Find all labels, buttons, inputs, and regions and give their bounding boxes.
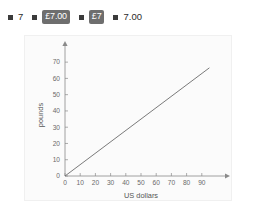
chart-series	[65, 68, 209, 176]
option-item-2[interactable]: £7.00	[32, 10, 70, 24]
y-tick-label: 0	[56, 172, 60, 179]
x-tick-label: 30	[107, 179, 115, 186]
option-label-3: £7	[89, 10, 105, 24]
chart-panel: 0102030405060708090 010203040506070 US d…	[24, 35, 232, 201]
y-tick-label: 60	[53, 75, 61, 82]
x-tick-label: 20	[92, 179, 100, 186]
bullet-square-icon	[8, 15, 13, 20]
bullet-square-icon	[79, 15, 84, 20]
x-tick-label: 60	[153, 179, 161, 186]
screenshot-root: 7 £7.00 £7 7.00 0102030405060708090 0102…	[0, 0, 253, 214]
y-tick-label: 40	[53, 107, 61, 114]
y-tick-label: 20	[53, 140, 61, 147]
conversion-line-chart: 0102030405060708090 010203040506070 US d…	[25, 36, 233, 202]
option-item-3[interactable]: £7	[79, 10, 105, 24]
x-axis-ticks: 0102030405060708090	[63, 173, 206, 186]
x-tick-label: 70	[168, 179, 176, 186]
answer-options-row: 7 £7.00 £7 7.00	[8, 8, 151, 26]
y-tick-label: 70	[53, 58, 61, 65]
y-axis-arrow-icon	[62, 41, 67, 46]
y-tick-label: 10	[53, 156, 61, 163]
x-tick-label: 90	[198, 179, 206, 186]
y-axis-title: pounds	[36, 103, 45, 128]
option-item-1[interactable]: 7	[8, 12, 23, 22]
x-axis-arrow-icon	[225, 173, 230, 178]
x-tick-label: 10	[77, 179, 85, 186]
option-label-2: £7.00	[42, 10, 70, 24]
data-line-series	[65, 68, 209, 176]
bullet-square-icon	[32, 15, 37, 20]
x-tick-label: 50	[137, 179, 145, 186]
option-label-1: 7	[18, 12, 23, 22]
x-axis-title: US dollars	[124, 191, 158, 200]
option-item-4[interactable]: 7.00	[113, 12, 142, 22]
y-tick-label: 30	[53, 124, 61, 131]
x-tick-label: 40	[122, 179, 130, 186]
x-tick-label: 80	[183, 179, 191, 186]
bullet-square-icon	[113, 15, 118, 20]
y-axis-ticks: 010203040506070	[53, 58, 68, 179]
option-label-4: 7.00	[123, 12, 142, 22]
x-tick-label: 0	[63, 179, 67, 186]
y-tick-label: 50	[53, 91, 61, 98]
chart-axes	[62, 41, 230, 179]
